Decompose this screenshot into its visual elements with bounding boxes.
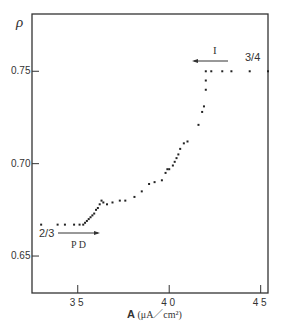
data-point (154, 181, 156, 183)
data-point (221, 70, 223, 72)
data-point (172, 165, 174, 167)
data-point (249, 70, 251, 72)
pd-arrowhead-icon (94, 231, 100, 235)
data-point (111, 201, 113, 203)
data-point (187, 140, 189, 142)
plot-frame (32, 14, 268, 293)
data-point (183, 142, 185, 144)
data-point (88, 218, 90, 220)
data-point (141, 190, 143, 192)
annotation-pd: P D (71, 239, 86, 250)
data-point (179, 148, 181, 150)
data-point (57, 224, 59, 226)
data-point (201, 111, 203, 113)
data-point (106, 203, 108, 205)
data-point (86, 220, 88, 222)
y-tick-label: 0.75 (11, 65, 30, 76)
data-point (95, 209, 97, 211)
y-ticks (32, 71, 39, 256)
data-point (148, 183, 150, 185)
data-point (40, 224, 42, 226)
data-point (133, 196, 135, 198)
y-tick-label: 0.70 (11, 158, 30, 169)
data-point (205, 70, 207, 72)
data-point (168, 168, 170, 170)
data-point (161, 179, 163, 181)
scatter-plot (0, 0, 283, 326)
y-tick-label: 0.65 (11, 250, 30, 261)
x-ticks (78, 285, 261, 293)
x-axis-unit: (μA／cm²) (137, 309, 181, 320)
data-point (84, 222, 86, 224)
annotation-i: I (213, 44, 217, 56)
data-point (90, 216, 92, 218)
data-point (93, 213, 95, 215)
data-point (99, 203, 101, 205)
data-point (165, 172, 167, 174)
data-point (174, 161, 176, 163)
data-point (267, 70, 269, 72)
data-point (205, 80, 207, 82)
data-point (197, 124, 199, 126)
data-point (97, 207, 99, 209)
data-point (205, 89, 207, 91)
data-point (64, 224, 66, 226)
data-point (230, 70, 232, 72)
data-point (73, 224, 75, 226)
data-point (102, 201, 104, 203)
x-tick-label: 4 0 (161, 297, 175, 308)
data-point (203, 105, 205, 107)
data-point (91, 214, 93, 216)
data-point (82, 224, 84, 226)
x-axis-label: A (μA／cm²) (127, 306, 182, 321)
data-point (119, 200, 121, 202)
annotation-2-3: 2/3 (39, 227, 54, 239)
data-point (176, 157, 178, 159)
annotation-3-4: 3/4 (245, 51, 260, 63)
i-arrowhead-icon (192, 59, 198, 63)
annotation-arrows (58, 59, 228, 235)
x-tick-label: 3 5 (70, 297, 84, 308)
data-point (101, 200, 103, 202)
data-point (79, 224, 81, 226)
data-point (166, 168, 168, 170)
data-point (177, 153, 179, 155)
data-point (124, 200, 126, 202)
y-axis-label: ρ (16, 14, 23, 31)
x-tick-label: 4 5 (253, 297, 267, 308)
data-point (210, 70, 212, 72)
data-points (40, 70, 269, 225)
